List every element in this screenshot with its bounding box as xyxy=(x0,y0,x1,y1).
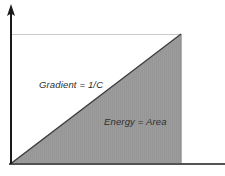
gradient-label: Gradient = 1/C xyxy=(39,80,103,90)
diagram-canvas xyxy=(0,0,225,176)
capacitor-energy-diagram: Gradient = 1/C Energy = Area xyxy=(0,0,225,176)
energy-label: Energy = Area xyxy=(104,117,167,127)
